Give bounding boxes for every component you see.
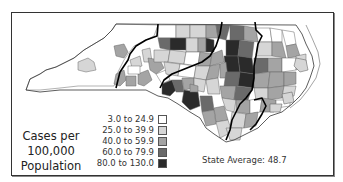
legend-swatch bbox=[158, 148, 167, 157]
county-gray bbox=[284, 72, 296, 86]
county-gray bbox=[268, 72, 284, 88]
county-white bbox=[282, 30, 296, 46]
county-darkgray bbox=[200, 96, 214, 112]
county-gray bbox=[126, 76, 136, 86]
legend-label: 80.0 to 130.0 bbox=[84, 158, 154, 168]
county-black bbox=[182, 90, 200, 110]
county-gray bbox=[244, 112, 258, 128]
legend-title-line: Population bbox=[12, 159, 90, 174]
county-gray bbox=[202, 110, 216, 126]
county-darkgray bbox=[224, 72, 240, 86]
county-black bbox=[238, 56, 254, 74]
county-lightgray bbox=[206, 78, 220, 94]
state-average: State Average: 48.7 bbox=[202, 155, 287, 165]
county-white bbox=[256, 28, 272, 42]
county-lightgray bbox=[154, 50, 170, 62]
county-gray bbox=[268, 58, 282, 72]
legend-label: 25.0 to 39.9 bbox=[84, 125, 154, 135]
legend-swatch bbox=[158, 159, 167, 168]
county-lightgray bbox=[186, 38, 198, 52]
county-darkgray bbox=[230, 25, 244, 40]
county-darkgray bbox=[238, 40, 254, 58]
legend-swatch bbox=[158, 115, 167, 124]
county-white bbox=[270, 28, 282, 42]
legend-swatch bbox=[158, 126, 167, 135]
county-lightgray bbox=[190, 25, 206, 38]
county-gray bbox=[254, 72, 270, 88]
county-gray bbox=[272, 42, 286, 58]
legend-item: 25.0 to 39.9 bbox=[84, 125, 167, 135]
county-gray bbox=[268, 86, 284, 100]
county-darkgray bbox=[254, 58, 268, 74]
county-darkgray bbox=[158, 38, 170, 50]
sound-island bbox=[282, 92, 294, 104]
county-lightgray bbox=[168, 50, 186, 64]
county-lightgray bbox=[176, 25, 190, 38]
sound-island bbox=[270, 104, 282, 112]
legend-item: 40.0 to 59.9 bbox=[84, 136, 167, 146]
county-black bbox=[170, 38, 186, 50]
legend-swatch bbox=[158, 137, 167, 146]
legend-label: 40.0 to 59.9 bbox=[84, 136, 154, 146]
county-black bbox=[226, 40, 240, 56]
legend-item: 3.0 to 24.9 bbox=[84, 114, 167, 124]
county-gray bbox=[198, 38, 206, 52]
legend-label: 3.0 to 24.9 bbox=[84, 114, 154, 124]
legend-item: 80.0 to 130.0 bbox=[84, 158, 167, 168]
county-black bbox=[238, 72, 254, 88]
legend-title: Cases per 100,000 Population bbox=[12, 129, 90, 174]
county-white bbox=[158, 25, 176, 38]
legend-label: 60.0 to 79.9 bbox=[84, 147, 154, 157]
legend-title-line: 100,000 bbox=[12, 144, 90, 159]
legend-title-line: Cases per bbox=[12, 129, 90, 144]
legend-item: 60.0 to 79.9 bbox=[84, 147, 167, 157]
county-white bbox=[128, 66, 140, 74]
